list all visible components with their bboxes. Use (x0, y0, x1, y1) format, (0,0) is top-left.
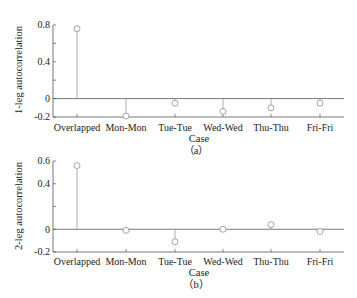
y-tick-label: 0.6 (38, 155, 51, 166)
stem-point (317, 229, 323, 235)
circle-marker-icon (74, 163, 80, 169)
circle-marker-icon (268, 105, 274, 111)
circle-marker-icon (268, 222, 274, 228)
circle-marker-icon (317, 229, 323, 235)
y-tick-label: 0.4 (38, 178, 51, 189)
stems-a (74, 26, 323, 119)
circle-marker-icon (317, 100, 323, 106)
circle-marker-icon (220, 226, 226, 232)
x-tick-label: Wed-Wed (203, 122, 242, 133)
autocorrelation-figure: 1-leg autocorrelation 0.8 0.4 0 -0.2 Ove… (0, 0, 357, 298)
y-axis-title-a: 1-leg autocorrelation (13, 25, 24, 114)
circle-marker-icon (220, 108, 226, 114)
stem-point (172, 229, 178, 245)
y-tick-label: 0.8 (38, 19, 51, 30)
x-tick-label: Thu-Thu (253, 122, 289, 133)
stem-point (74, 26, 80, 99)
y-tick-labels-a: 0.8 0.4 0 -0.2 (34, 19, 50, 122)
y-tick-label: -0.2 (34, 111, 50, 122)
y-tick-label: 0 (45, 93, 50, 104)
y-tick-label: 0 (45, 224, 50, 235)
x-tick-label: Tue-Tue (158, 122, 192, 133)
stem-point (74, 163, 80, 230)
x-tick-label: Overlapped (54, 122, 101, 133)
x-tick-labels-a: Overlapped Mon-Mon Tue-Tue Wed-Wed Thu-T… (54, 122, 334, 133)
stem-point (268, 222, 274, 230)
stem-point (172, 99, 178, 107)
y-tick-label: -0.2 (34, 246, 50, 257)
circle-marker-icon (172, 100, 178, 106)
x-tick-label: Mon-Mon (105, 256, 146, 267)
chart-panel-b: 2-leg autocorrelation 0.6 0.4 0 -0.2 Ove… (13, 155, 344, 290)
x-tick-label: Tue-Tue (158, 256, 192, 267)
circle-marker-icon (123, 113, 129, 119)
circle-marker-icon (74, 26, 80, 32)
x-axis-title-a: Case (189, 133, 210, 144)
x-tick-label: Mon-Mon (105, 122, 146, 133)
x-tick-label: Overlapped (54, 256, 101, 267)
stem-point (317, 99, 323, 107)
y-axis-title-b: 2-leg autocorrelation (13, 161, 24, 250)
x-tick-label: Fri-Fri (307, 256, 334, 267)
x-axis-title-b: Case (189, 267, 210, 278)
stem-point (123, 227, 129, 233)
stem-point (220, 226, 226, 232)
stem-point (268, 99, 274, 111)
chart-panel-a: 1-leg autocorrelation 0.8 0.4 0 -0.2 Ove… (13, 19, 344, 156)
x-tick-labels-b: Overlapped Mon-Mon Tue-Tue Wed-Wed Thu-T… (54, 256, 334, 267)
x-tick-label: Wed-Wed (203, 256, 242, 267)
panel-label-a: （a） (184, 145, 209, 156)
circle-marker-icon (123, 227, 129, 233)
stem-point (123, 99, 129, 119)
x-tick-label: Fri-Fri (307, 122, 334, 133)
circle-marker-icon (172, 239, 178, 245)
x-tick-label: Thu-Thu (253, 256, 289, 267)
y-tick-labels-b: 0.6 0.4 0 -0.2 (34, 155, 50, 257)
stems-b (74, 163, 323, 245)
panel-label-b: （b） (183, 279, 208, 290)
axes-b (53, 161, 344, 252)
axes-a (53, 25, 344, 117)
y-tick-label: 0.4 (38, 56, 51, 67)
stem-point (220, 99, 226, 115)
